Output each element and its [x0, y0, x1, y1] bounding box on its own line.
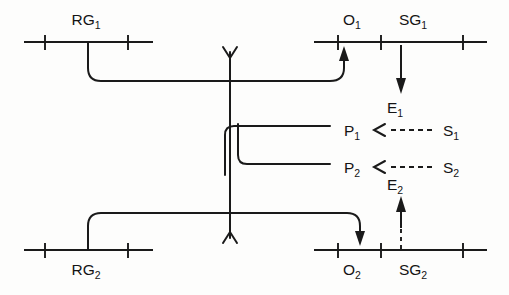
s1-to-p1-arrowhead-icon	[374, 124, 385, 136]
rg2-to-o2-pathway	[88, 213, 365, 249]
e2-arrow-group	[396, 196, 406, 249]
label-s2: S2	[443, 159, 459, 179]
o1-arrowhead-icon	[339, 46, 349, 61]
label-sg1: SG1	[399, 11, 427, 31]
label-p2: P2	[344, 159, 360, 179]
diagram-canvas: P1 ============ --> P2 ============ --> …	[0, 0, 509, 295]
label-rg2: RG2	[71, 261, 100, 281]
o2-arrowhead-icon	[355, 231, 365, 246]
rg1-to-o1-connector	[88, 43, 344, 81]
junction-to-p2-connector	[238, 124, 330, 164]
label-p1: P1	[344, 122, 360, 142]
label-sg2: SG2	[399, 261, 427, 281]
e1-arrow-group	[396, 45, 406, 94]
s2-to-p2-arrow-group	[374, 161, 432, 173]
junction-to-p1-connector	[225, 126, 330, 175]
label-rg1: RG1	[71, 11, 100, 31]
label-s1: S1	[443, 122, 459, 142]
flow-diagram: P1 ============ --> P2 ============ --> …	[0, 0, 509, 295]
label-o2: O2	[343, 261, 361, 281]
s1-to-p1-arrow-group	[374, 124, 432, 136]
label-e1: E1	[387, 99, 403, 119]
junction-to-p-branches	[225, 124, 330, 175]
label-o1: O1	[343, 11, 361, 31]
e2-arrowhead-icon	[396, 196, 406, 212]
label-e2: E2	[387, 176, 403, 196]
e1-arrowhead-icon	[396, 78, 406, 94]
s2-to-p2-arrowhead-icon	[374, 161, 385, 173]
